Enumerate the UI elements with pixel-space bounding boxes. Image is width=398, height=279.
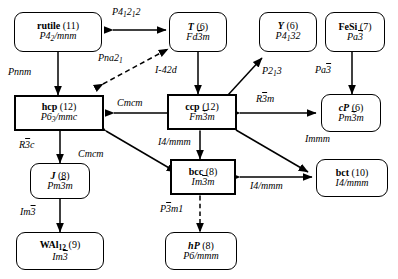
node-FeSi-group: Pa3 <box>347 32 363 42</box>
edge-label-bcc-bct: I4/mmm <box>250 180 283 191</box>
node-bct-group: I4/mmm <box>336 178 369 188</box>
node-T[interactable]: T (6) Fd3m <box>169 12 227 52</box>
node-bcc[interactable]: bcc (8) Im3m <box>170 159 236 195</box>
node-FeSi[interactable]: FeSi (7) Pa3 <box>325 12 385 52</box>
node-T-group: Fd3m <box>186 32 209 42</box>
node-J-group: Pm3m <box>47 181 73 191</box>
node-hcp-group: P63/mmc <box>41 112 78 123</box>
node-hcp[interactable]: hcp (12) P63/mmc <box>14 95 104 131</box>
node-hP[interactable]: hP (8) P6/mmm <box>165 232 237 270</box>
edge-label-FeSi-cP: Pa3 <box>315 64 331 75</box>
node-ccp-group: Fm3m <box>189 112 215 122</box>
node-WAl12[interactable]: WAl12 (9) Im3 <box>16 232 104 270</box>
edge-label-ccp-bcc: I4/mmm <box>158 136 191 147</box>
edge-label-bcc-hP: P3m1 <box>160 203 183 214</box>
node-WAl12-group: Im3 <box>52 252 68 262</box>
edge-label-hcp-J: R3c <box>19 139 35 150</box>
node-hP-group: P6/mmm <box>183 251 219 261</box>
phase-relationship-diagram: rutile (11) P42/mnm T (6) Fd3m Y (6) P41… <box>0 0 398 279</box>
node-rutile[interactable]: rutile (11) P42/mnm <box>14 12 102 52</box>
node-cP-group: Pm3m <box>338 113 364 123</box>
edge-label-ccp-Y: P213 <box>262 65 282 78</box>
node-Y[interactable]: Y (6) P4132 <box>259 12 317 52</box>
node-J[interactable]: J (8) Pm3m <box>30 163 90 199</box>
edge-label-rutile-T: P41212 <box>112 6 141 19</box>
node-cP[interactable]: cP (6) Pm3m <box>321 94 381 132</box>
edge-label-rutile-hcp: Pnnm <box>8 66 31 77</box>
node-ccp[interactable]: ccp (12) Fm3m <box>167 94 237 130</box>
edge-label-hcp-bcc: Cmcm <box>78 148 104 159</box>
edge-label-ccp-bct: Immm <box>305 133 330 144</box>
node-rutile-group: P42/mnm <box>39 31 76 42</box>
node-bct[interactable]: bct (10) I4/mmm <box>316 159 388 197</box>
node-Y-group: P4132 <box>276 31 301 42</box>
node-bcc-group: Im3m <box>192 177 215 187</box>
edge-label-T-ccp: I-42d <box>155 64 177 75</box>
edge-label-ccp-cP: R3m <box>256 93 274 104</box>
edge-label-hcp-ccp: Cmcm <box>117 97 143 108</box>
edge-label-hcp-T: Pna21 <box>98 52 123 65</box>
edge-label-J-WAl12: Im3 <box>20 206 36 217</box>
